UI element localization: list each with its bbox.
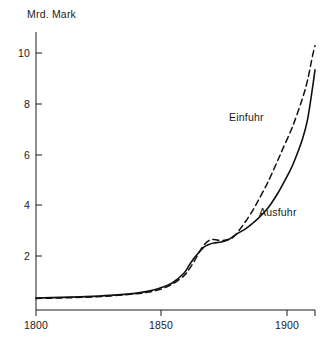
y-axis-tick-label-6: 6 — [8, 149, 30, 161]
chart-container: Mrd. Mark 10 8 6 4 2 1800 1850 1900 Einf… — [0, 0, 332, 342]
series-line-einfuhr — [36, 46, 315, 299]
x-axis-tick-label-1800: 1800 — [16, 319, 56, 331]
x-axis-tick-label-1900: 1900 — [267, 319, 307, 331]
x-axis-ticks — [36, 310, 315, 316]
chart-series-group — [36, 46, 315, 299]
y-axis-tick-label-2: 2 — [8, 250, 30, 262]
chart-axes — [36, 32, 315, 310]
y-axis-tick-label-8: 8 — [8, 98, 30, 110]
y-axis-ticks — [36, 53, 42, 256]
series-label-einfuhr: Einfuhr — [229, 111, 264, 123]
y-axis-tick-label-10: 10 — [8, 47, 30, 59]
y-axis-unit-label: Mrd. Mark — [27, 8, 76, 20]
x-axis-tick-label-1850: 1850 — [141, 319, 181, 331]
series-line-ausfuhr — [36, 70, 315, 298]
chart-plot-area — [0, 0, 332, 342]
series-label-ausfuhr: Ausfuhr — [259, 206, 297, 218]
y-axis-tick-label-4: 4 — [8, 199, 30, 211]
